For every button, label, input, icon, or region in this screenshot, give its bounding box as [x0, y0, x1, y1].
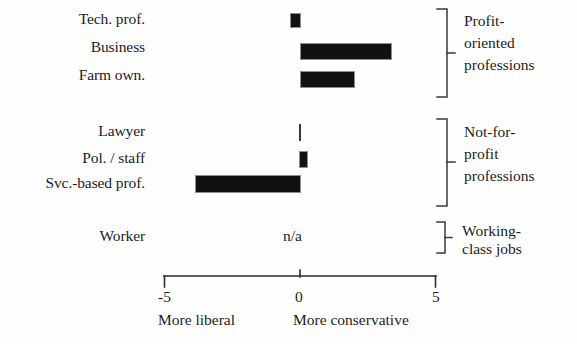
category-label-farm-own: Farm own.	[79, 67, 145, 83]
group-label-profit-line3: professions	[464, 56, 535, 74]
bar-pol-staff	[299, 151, 308, 168]
group-label-working-line1: Working-	[462, 222, 521, 240]
bar-farm-own	[300, 71, 355, 88]
group-label-nonprofit-line3: professions	[464, 167, 535, 185]
category-label-lawyer: Lawyer	[98, 123, 145, 139]
category-label-business: Business	[91, 39, 145, 55]
bar-business	[300, 43, 392, 60]
group-label-working-line2: class jobs	[462, 240, 522, 258]
bar-svc-based-prof	[195, 175, 301, 193]
group-label-profit-line1: Profit-	[464, 12, 504, 30]
bar-chart-figure: Tech. prof. Business Farm own. Lawyer Po…	[0, 0, 577, 344]
bar-lawyer	[299, 124, 301, 141]
axis-tick-label-minus5: -5	[158, 289, 171, 305]
group-label-nonprofit-line1: Not-for-	[464, 123, 515, 141]
group-bracket-nonprofit	[437, 119, 447, 206]
bar-tech-prof	[290, 13, 301, 28]
group-label-nonprofit-line2: profit	[464, 145, 498, 163]
group-bracket-profit	[437, 9, 447, 97]
category-label-worker: Worker	[100, 228, 146, 244]
category-label-tech-prof: Tech. prof.	[79, 11, 145, 27]
axis-caption-more-liberal: More liberal	[158, 311, 235, 328]
category-label-svc-based-prof: Svc.-based prof.	[45, 175, 145, 191]
group-label-profit-line2: oriented	[464, 34, 515, 52]
group-bracket-working	[437, 222, 445, 253]
axis-tick-label-plus5: 5	[432, 289, 440, 305]
category-label-pol-staff: Pol. / staff	[82, 150, 145, 166]
axis-caption-more-conservative: More conservative	[293, 311, 409, 328]
worker-na-marker: n/a	[283, 228, 302, 244]
axis-tick-label-zero: 0	[295, 289, 303, 305]
